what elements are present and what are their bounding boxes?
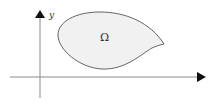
y-axis-label: y bbox=[48, 10, 55, 20]
coordinate-diagram: y Ω bbox=[0, 0, 216, 102]
region-label: Ω bbox=[100, 31, 109, 44]
region-omega bbox=[58, 12, 164, 69]
y-axis-arrow-icon bbox=[35, 10, 45, 18]
x-axis-arrow-icon bbox=[197, 72, 206, 82]
